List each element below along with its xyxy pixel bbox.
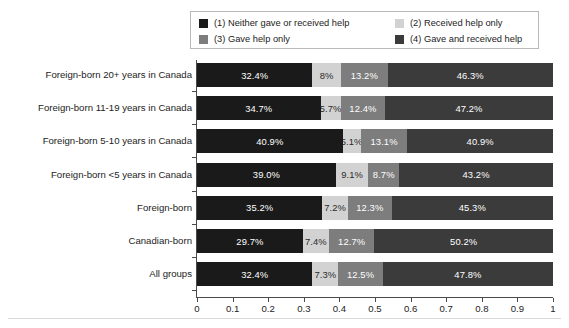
bar-segment[interactable]: 5.7% <box>321 96 341 120</box>
bar-row[interactable]: 32.4%7.3%12.5%47.8% <box>197 262 553 286</box>
bar-value-label: 12.7% <box>338 236 365 247</box>
bar-value-label: 12.3% <box>356 202 383 213</box>
y-axis-label-6: All groups <box>4 268 192 279</box>
bar-segment[interactable]: 12.3% <box>348 196 392 220</box>
y-axis-tick <box>192 257 197 258</box>
legend-swatch-gave-icon <box>199 35 208 44</box>
bar-value-label: 5.7% <box>321 103 341 114</box>
bar-segment[interactable]: 43.2% <box>399 163 553 187</box>
legend-item-both: (4) Gave and received help <box>395 34 522 44</box>
y-axis-tick <box>192 290 197 291</box>
bar-value-label: 40.9% <box>467 136 494 147</box>
x-axis-tick <box>553 298 554 302</box>
bar-row[interactable]: 35.2%7.2%12.3%45.3% <box>197 196 553 220</box>
bar-segment[interactable]: 50.2% <box>374 229 553 253</box>
y-axis-label-1: Foreign-born 11-19 years in Canada <box>4 102 192 113</box>
bar-value-label: 43.2% <box>463 169 490 180</box>
bar-value-label: 39.0% <box>253 169 280 180</box>
y-axis-tick <box>192 124 197 125</box>
bar-segment[interactable]: 35.2% <box>197 196 322 220</box>
y-axis-category-labels: Foreign-born 20+ years in CanadaForeign-… <box>0 57 192 294</box>
bar-segment[interactable]: 40.9% <box>197 129 343 153</box>
legend-label-gave: (3) Gave help only <box>214 34 290 44</box>
bar-segment[interactable]: 32.4% <box>197 262 312 286</box>
bar-segment[interactable]: 8.7% <box>368 163 399 187</box>
x-axis-tick <box>482 298 483 302</box>
bar-value-label: 50.2% <box>450 236 477 247</box>
x-axis-tick-label-6: 0.6 <box>404 303 417 315</box>
bar-value-label: 8% <box>320 70 334 81</box>
bar-row[interactable]: 32.4%8%13.2%46.3% <box>197 63 553 87</box>
legend-label-neither: (1) Neither gave or received help <box>214 18 349 28</box>
bar-segment[interactable]: 7.2% <box>322 196 348 220</box>
x-axis-tick-label-0: 0 <box>194 303 199 315</box>
bar-segment[interactable]: 46.3% <box>388 63 553 87</box>
y-axis-tick <box>192 224 197 225</box>
x-axis-tick <box>411 298 412 302</box>
bar-segment[interactable]: 7.3% <box>312 262 338 286</box>
bar-value-label: 47.8% <box>454 269 481 280</box>
x-axis-tick <box>233 298 234 302</box>
bar-row[interactable]: 40.9%5.1%13.1%40.9% <box>197 129 553 153</box>
bar-segment[interactable]: 39.0% <box>197 163 336 187</box>
footer-divider <box>8 318 561 319</box>
stacked-bar-chart: Foreign-born 20+ years in CanadaForeign-… <box>0 57 569 305</box>
x-axis-tick-label-1: 0.1 <box>226 303 239 315</box>
bar-segment[interactable]: 32.4% <box>197 63 312 87</box>
x-axis-tick-label-10: 1 <box>550 303 555 315</box>
x-axis-tick <box>197 298 198 302</box>
bar-value-label: 13.1% <box>371 136 398 147</box>
y-axis-label-3: Foreign-born <5 years in Canada <box>4 169 192 180</box>
x-axis-tick <box>304 298 305 302</box>
chart-legend: (1) Neither gave or received help (2) Re… <box>190 11 539 49</box>
bar-row[interactable]: 29.7%7.4%12.7%50.2% <box>197 229 553 253</box>
bar-value-label: 5.1% <box>343 136 361 147</box>
legend-row: (3) Gave help only (4) Gave and received… <box>199 32 532 46</box>
x-axis-tick <box>268 298 269 302</box>
bar-row[interactable]: 39.0%9.1%8.7%43.2% <box>197 163 553 187</box>
bar-value-label: 46.3% <box>457 70 484 81</box>
bar-value-label: 9.1% <box>341 169 363 180</box>
x-axis-tick-label-9: 0.9 <box>511 303 524 315</box>
bar-value-label: 7.4% <box>305 236 327 247</box>
y-axis-tick <box>192 191 197 192</box>
bar-segment[interactable]: 5.1% <box>343 129 361 153</box>
bar-segment[interactable]: 12.5% <box>338 262 383 286</box>
bar-value-label: 7.2% <box>324 202 346 213</box>
bar-segment[interactable]: 12.7% <box>329 229 374 253</box>
bar-segment[interactable]: 47.2% <box>385 96 553 120</box>
bar-segment[interactable]: 13.1% <box>361 129 408 153</box>
bar-segment[interactable]: 13.2% <box>341 63 388 87</box>
legend-item-neither: (1) Neither gave or received help <box>199 18 395 28</box>
bar-segment[interactable]: 9.1% <box>336 163 368 187</box>
y-axis-label-4: Foreign-born <box>4 202 192 213</box>
legend-swatch-neither-icon <box>199 19 208 28</box>
y-axis-label-0: Foreign-born 20+ years in Canada <box>4 69 192 80</box>
bar-segment[interactable]: 40.9% <box>407 129 553 153</box>
x-axis-tick <box>446 298 447 302</box>
y-axis-label-5: Canadian-born <box>4 235 192 246</box>
bar-segment[interactable]: 12.4% <box>341 96 385 120</box>
legend-item-gave: (3) Gave help only <box>199 34 395 44</box>
bar-value-label: 13.2% <box>351 70 378 81</box>
bar-value-label: 32.4% <box>241 269 268 280</box>
bar-value-label: 34.7% <box>245 103 272 114</box>
bar-row[interactable]: 34.7%5.7%12.4%47.2% <box>197 96 553 120</box>
x-axis-tick-label-7: 0.7 <box>440 303 453 315</box>
bar-segment[interactable]: 45.3% <box>392 196 553 220</box>
bar-value-label: 45.3% <box>459 202 486 213</box>
y-axis-tick <box>192 157 197 158</box>
bar-segment[interactable]: 8% <box>312 63 340 87</box>
bar-segment[interactable]: 34.7% <box>197 96 321 120</box>
bar-segment[interactable]: 7.4% <box>303 229 329 253</box>
x-axis-tick-label-2: 0.2 <box>262 303 275 315</box>
bar-value-label: 35.2% <box>246 202 273 213</box>
y-axis-tick <box>192 91 197 92</box>
bar-value-label: 40.9% <box>256 136 283 147</box>
x-axis-tick-label-5: 0.5 <box>368 303 381 315</box>
x-axis-tick <box>517 298 518 302</box>
bar-segment[interactable]: 47.8% <box>383 262 553 286</box>
bar-segment[interactable]: 29.7% <box>197 229 303 253</box>
y-axis-label-2: Foreign-born 5-10 years in Canada <box>4 135 192 146</box>
bar-value-label: 12.5% <box>347 269 374 280</box>
